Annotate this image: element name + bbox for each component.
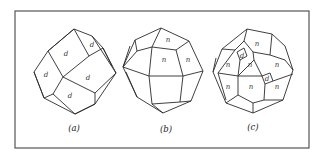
face-label: d	[90, 41, 95, 49]
face-label: n	[248, 61, 253, 69]
panel-a-rhombic-dodecahedron: d d d d d (a)	[34, 29, 116, 133]
face-label: n	[162, 56, 167, 64]
face-label: d	[44, 71, 49, 79]
face-label: d	[240, 52, 245, 60]
polyhedra-figure: d d d d d (a) n n n (b)	[0, 0, 323, 154]
face-label: n	[186, 56, 191, 64]
face-label: n	[226, 61, 231, 69]
face-label: d	[68, 92, 73, 100]
face-label: n	[249, 83, 254, 91]
caption-b: (b)	[160, 124, 172, 134]
panel-c-polyhedron: n d n n n d n n n (c)	[213, 29, 293, 132]
panel-b-polyhedron: n n n (b)	[123, 28, 203, 134]
face-label: d	[265, 75, 270, 83]
face-label: n	[255, 40, 260, 48]
face-label: d	[64, 50, 69, 58]
face-label: d	[86, 74, 91, 82]
face-label: n	[166, 36, 171, 44]
face-label: n	[275, 61, 280, 69]
caption-a: (a)	[68, 123, 80, 133]
caption-c: (c)	[247, 122, 258, 132]
face-label: n	[275, 83, 280, 91]
face-label: n	[226, 83, 231, 91]
